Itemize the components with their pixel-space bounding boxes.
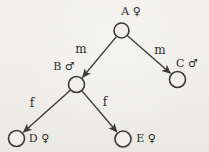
node-c-circle	[170, 72, 186, 88]
edge-a-b-label: m	[75, 42, 87, 56]
node-b-label: B ♂	[53, 60, 74, 73]
node-d-label: D ♀	[29, 132, 49, 145]
edge-b-to-e-arrow	[82, 91, 117, 132]
pedigree-tree-figure: m m f f A ♀ B ♂ C ♂ D ♀ E ♀	[0, 0, 209, 152]
edge-b-e-label: f	[103, 95, 109, 109]
edge-a-to-b-arrow	[83, 37, 117, 78]
node-a-circle	[114, 23, 129, 38]
node-e-circle	[115, 131, 131, 147]
edge-b-d-label: f	[30, 96, 36, 110]
node-e-label: E ♀	[136, 132, 156, 145]
node-c-label: C ♂	[176, 57, 198, 70]
tree-diagram-svg: m m f f A ♀ B ♂ C ♂ D ♀ E ♀	[0, 0, 209, 152]
node-d-circle	[9, 131, 25, 147]
edge-a-c-label: m	[154, 43, 166, 57]
node-b-circle	[69, 77, 85, 93]
node-a-label: A ♀	[120, 5, 140, 18]
